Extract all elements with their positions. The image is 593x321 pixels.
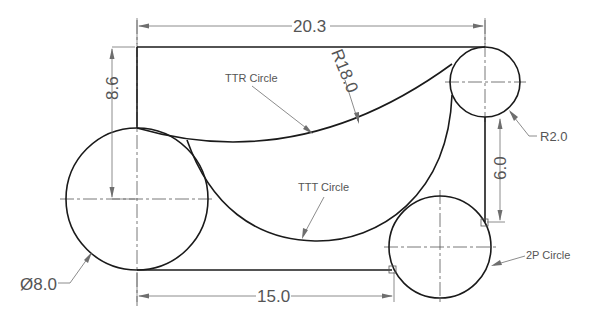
dim-left-height: 8.6 [103,47,135,199]
note-2p: 2P Circle [491,249,570,266]
dim-overall-width: 20.3 [137,17,485,44]
dim-arc-radius: R18.0 [327,46,362,124]
tangent-markers [389,219,488,273]
geometry [66,47,520,298]
dim-right-height: 6.0 [487,118,510,222]
ttr-circle-label: TTR Circle [225,72,278,84]
small-radius-label: R2.0 [540,129,567,144]
bottom-width-label: 15.0 [257,287,290,306]
overall-width-label: 20.3 [293,17,326,36]
ttt-circle-arc [187,95,452,241]
left-height-label: 8.6 [103,76,122,100]
ttr-arc [137,64,452,142]
arc-radius-label: R18.0 [327,46,362,95]
ttt-circle-label: TTT Circle [298,181,349,193]
dim-bottom-width: 15.0 [137,272,394,306]
cad-drawing: 20.3 8.6 R18.0 TTR Circle TTT Circle R2.… [0,0,593,321]
2p-circle-label: 2P Circle [526,249,570,261]
note-ttt: TTT Circle [298,181,349,239]
dim-large-diameter: Ø8.0 [20,252,92,294]
large-diameter-label: Ø8.0 [20,275,57,294]
note-ttr: TTR Circle [225,72,313,134]
right-height-label: 6.0 [491,156,510,180]
dim-small-radius: R2.0 [509,110,567,144]
